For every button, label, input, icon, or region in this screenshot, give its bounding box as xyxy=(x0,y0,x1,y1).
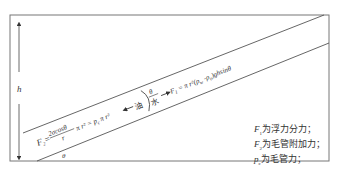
water-label: 水 xyxy=(149,95,160,107)
bottom-angle-label: θ xyxy=(62,152,66,160)
legend: F1为浮力分力； F2为毛管附加力； pc为毛管力； xyxy=(254,124,325,168)
tube-upper-wall xyxy=(23,15,324,133)
force-arrow-left xyxy=(125,107,133,110)
formula-frac-num: 2σcosθ xyxy=(47,123,69,138)
legend-item-F2: F2为毛管附加力； xyxy=(254,139,325,154)
formula-F2-rest: π r² = pc π r² xyxy=(75,112,113,134)
oil-label: 油 xyxy=(134,99,145,111)
height-label: h xyxy=(17,84,22,94)
legend-item-F1: F1为浮力分力； xyxy=(254,124,325,139)
legend-item-pc: pc为毛管力； xyxy=(254,154,325,169)
formula-frac-den: r xyxy=(61,134,67,143)
force-arrow-right xyxy=(161,93,168,96)
formula-F1: F1 = π r²(ρw -ρo)ghsinθ xyxy=(168,64,233,97)
